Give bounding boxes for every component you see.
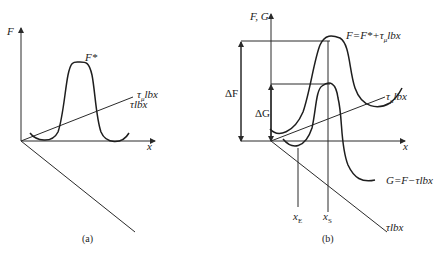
delta-f-label: ΔF: [225, 87, 238, 99]
f-curve: [270, 36, 402, 133]
panel-a: F x τlbx F* τμlbx (a): [6, 25, 158, 245]
tau-mu-lbx-label: τμlbx: [137, 88, 158, 103]
tau-mu-lbx-line: [21, 97, 133, 141]
delta-g-label: ΔG: [255, 107, 270, 119]
caption-a: (a): [82, 233, 93, 245]
xe-label: xE: [292, 210, 302, 225]
tau-lbx-label-b: τlbx: [386, 221, 403, 233]
g-curve: [283, 83, 375, 181]
tau-lbx-axis: [21, 141, 135, 232]
caption-b: (b): [322, 233, 334, 245]
fg-axis-label: F, G: [249, 10, 269, 22]
tau-mu-lbx-label-b: τμlbx: [386, 90, 407, 105]
f-star-label: F*: [84, 51, 98, 63]
f-axis-label: F: [6, 25, 14, 37]
panel-b: F, G x τlbx ΔF ΔG F=F*+τμlbx τμlbx G=F−τ…: [225, 10, 433, 245]
x-axis-label: x: [146, 140, 152, 152]
f-star-curve: [30, 62, 129, 142]
xs-label: xS: [322, 210, 332, 225]
diagram-figure: F x τlbx F* τμlbx (a) F, G x τlbx ΔF ΔG …: [0, 0, 437, 255]
x-axis-label-b: x: [402, 140, 408, 152]
g-curve-label: G=F−τlbx: [386, 174, 433, 186]
f-curve-label: F=F*+τμlbx: [345, 29, 401, 44]
